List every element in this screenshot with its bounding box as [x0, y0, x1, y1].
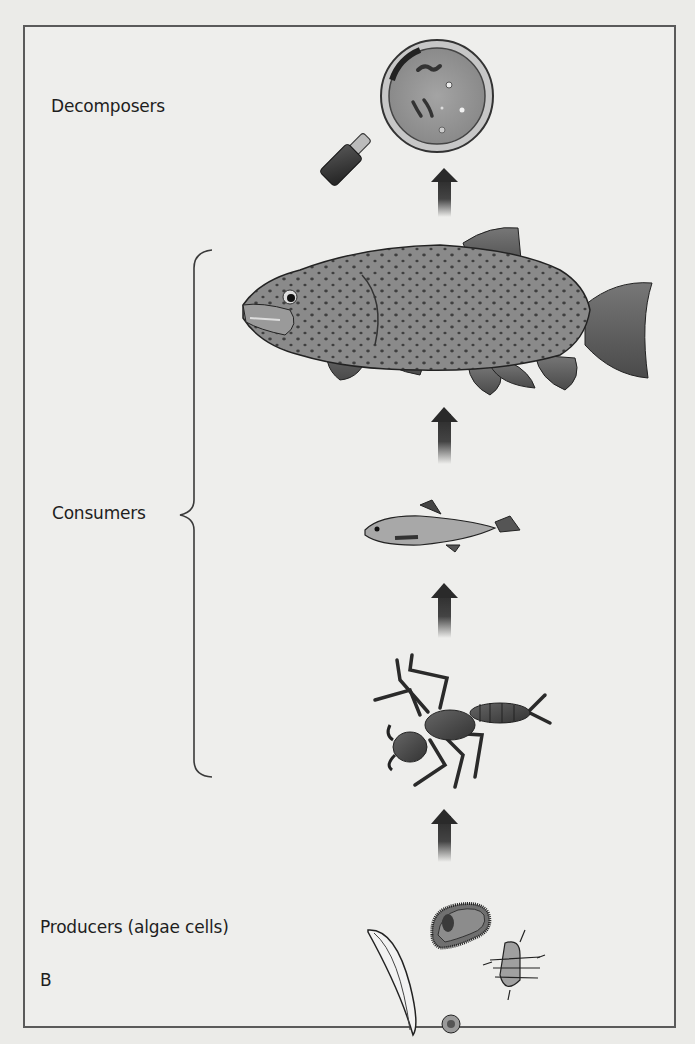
trout-icon: [243, 228, 652, 395]
algae-cells-icon: [368, 904, 545, 1035]
arrow-up-icon: [431, 809, 458, 862]
arrow-up-icon: [431, 583, 458, 638]
insect-larva-body: [388, 703, 530, 770]
magnifying-glass-icon: [319, 40, 493, 187]
arrow-up-icon: [431, 168, 458, 217]
minnow-icon: [365, 500, 520, 552]
arrow-up-icon: [431, 407, 458, 464]
consumers-bracket: [180, 250, 212, 777]
food-chain-illustration: [0, 0, 695, 1044]
